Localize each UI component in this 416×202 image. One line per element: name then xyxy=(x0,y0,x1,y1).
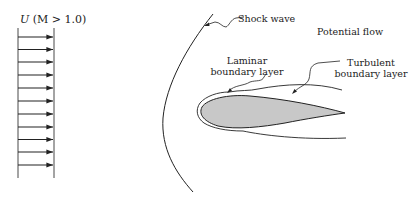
turbulent-label-line1: Turbulent xyxy=(330,57,412,68)
turbulent-label-line2: boundary layer xyxy=(330,68,412,79)
freestream-symbol: U xyxy=(20,13,29,26)
turbulent-boundary-layer-label: Turbulent boundary layer xyxy=(330,57,412,79)
potential-flow-label: Potential flow xyxy=(317,26,383,37)
freestream-arrows xyxy=(18,37,53,165)
laminar-label-line2: boundary layer xyxy=(206,66,288,77)
freestream-label: U (M > 1.0) xyxy=(20,14,86,25)
laminar-label-line1: Laminar xyxy=(206,55,288,66)
airfoil-shape xyxy=(201,96,345,128)
turbulent-layer-edge xyxy=(229,85,342,92)
freestream-condition: (M > 1.0) xyxy=(33,13,87,26)
shock-wave-label: Shock wave xyxy=(238,13,295,24)
laminar-boundary-layer-label: Laminar boundary layer xyxy=(206,55,288,77)
